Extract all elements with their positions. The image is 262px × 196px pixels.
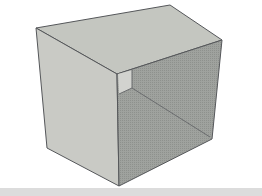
box-render bbox=[0, 0, 262, 196]
cube-graphic bbox=[0, 0, 262, 196]
floor-band bbox=[0, 188, 262, 196]
